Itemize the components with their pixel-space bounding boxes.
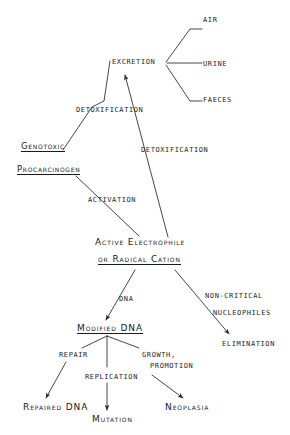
node-or-radical-cation: or Radical Cation	[98, 255, 181, 265]
node-excretion: EXCRETION	[112, 59, 155, 66]
edge-label-growth: GROWTH,	[142, 352, 176, 359]
edge-modifieddna-repair-stem	[82, 336, 107, 348]
edge-label-nucleophiles: NUCLEOPHILES	[213, 310, 271, 317]
edge-label-replication: REPLICATION	[85, 374, 138, 381]
node-faeces: FAECES	[203, 97, 232, 104]
edge-radical-elimination	[175, 270, 229, 334]
node-procarcinogen: Procarcinogen	[17, 165, 80, 175]
node-mutation: Mutation	[92, 415, 133, 424]
edge-label-dna: DNA	[119, 296, 133, 303]
metabolic-pathway-diagram: AIR URINE FAECES EXCRETION DETOXIFICATIO…	[0, 0, 290, 435]
edge-modifieddna-neoplasia	[152, 375, 183, 398]
node-elimination: ELIMINATION	[222, 341, 275, 348]
edge-procarcinogen-electrophile	[76, 176, 139, 236]
edge-electrophile-excretion	[125, 75, 168, 237]
node-air: AIR	[203, 17, 217, 24]
edge-label-activation: ACTIVATION	[88, 197, 136, 204]
edge-label-repair: REPAIR	[59, 352, 88, 359]
node-repaired-dna: Repaired DNA	[23, 403, 88, 412]
edge-label-non-critical: NON-CRITICAL	[205, 293, 263, 300]
edge-modifieddna-growth-stem	[107, 336, 139, 348]
edge-excretion-air	[166, 29, 202, 62]
edge-label-promotion: PROMOTION	[150, 363, 193, 370]
node-active-electrophile: Active Electrophile	[95, 238, 185, 247]
node-urine: URINE	[203, 61, 227, 68]
node-neoplasia: Neoplasia	[165, 403, 209, 412]
node-genotoxic: Genotoxic	[21, 142, 65, 152]
edge-modifieddna-repaired-dna	[46, 362, 66, 398]
edge-label-detoxification-1: DETOXIFICATION	[76, 107, 143, 114]
edge-label-detoxification-2: DETOXIFICATION	[141, 147, 208, 154]
edge-excretion-faeces	[166, 65, 202, 101]
node-modified-dna: Modified DNA	[77, 324, 143, 334]
